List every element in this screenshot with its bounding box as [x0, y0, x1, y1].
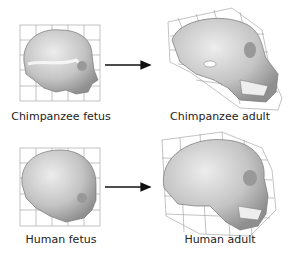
label-chimpanzee-fetus: Chimpanzee fetus [6, 110, 116, 123]
chimpanzee-adult-skull [168, 8, 282, 110]
human-fetus-skull [20, 148, 100, 226]
label-human-adult: Human adult [165, 233, 275, 246]
label-human-fetus: Human fetus [6, 233, 116, 246]
human-adult-skull [162, 132, 276, 236]
skull-transformation-diagram [0, 0, 299, 254]
label-chimpanzee-adult: Chimpanzee adult [165, 110, 275, 123]
chimpanzee-fetus-skull [20, 25, 100, 101]
